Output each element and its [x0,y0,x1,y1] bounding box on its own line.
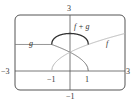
x-tick-label-right: 3 [126,67,130,76]
function-plot: −3 3 −1 1 3 −1 f + g g f [0,0,132,102]
label-f: f [106,39,110,48]
x-tick-label-left: −3 [1,67,10,76]
x-tick-label-neg1: −1 [47,75,56,84]
y-tick-label-bottom: −1 [66,92,75,101]
curve-f [52,34,125,72]
y-tick-label-top: 3 [67,4,71,13]
x-tick-label-pos1: 1 [85,75,89,84]
label-f-plus-g: f + g [74,22,90,31]
label-g: g [29,39,33,48]
